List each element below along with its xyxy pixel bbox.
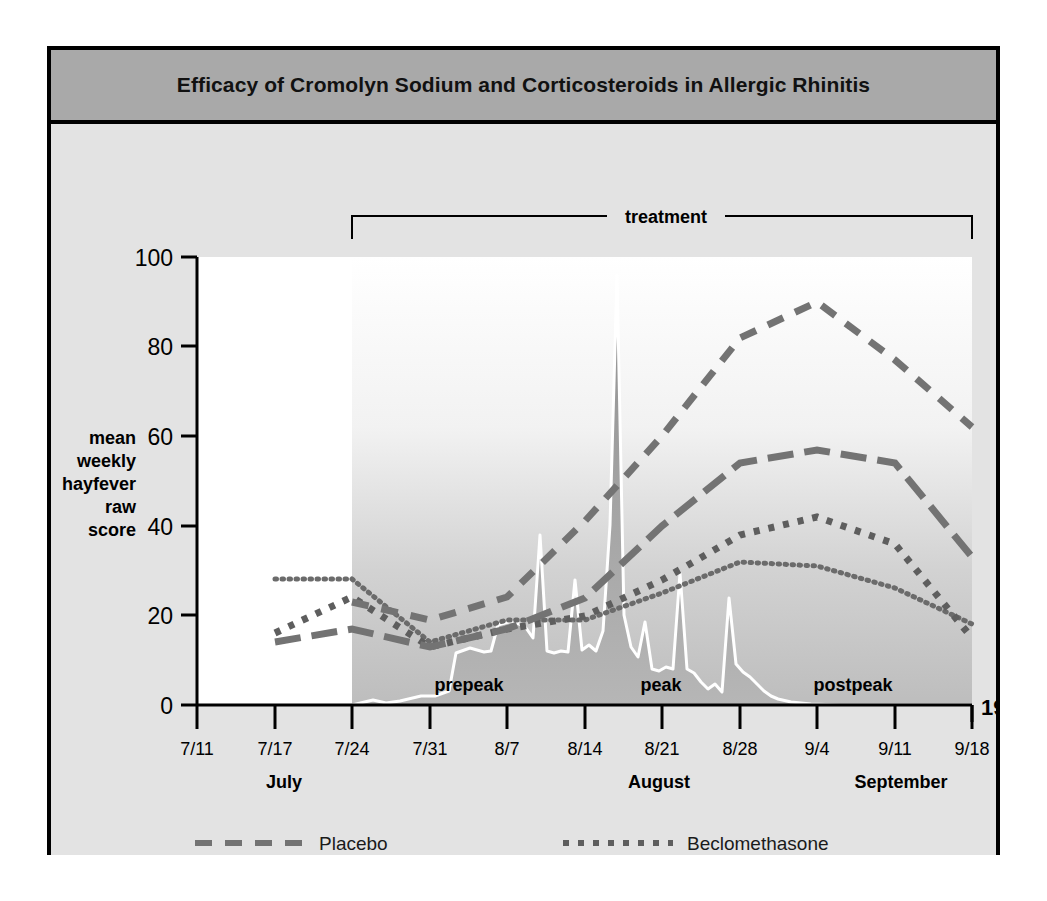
chart-canvas: treatment prepeak peak postpeak — [51, 124, 996, 855]
treatment-label: treatment — [625, 207, 707, 227]
y-axis-label-line-3: hayfever — [62, 474, 136, 494]
legend-label-beclomethasone: Beclomethasone — [687, 833, 829, 854]
phase-label-peak: peak — [640, 675, 682, 695]
y-axis-label: mean weekly hayfever raw score — [62, 428, 137, 540]
phase-label-prepeak: prepeak — [434, 675, 504, 695]
x-tick-10: 9/18 — [954, 739, 989, 759]
chart-svg: treatment prepeak peak postpeak — [51, 124, 996, 855]
x-tick-3: 7/31 — [412, 739, 447, 759]
x-tick-1: 7/17 — [257, 739, 292, 759]
month-label-july: July — [266, 772, 302, 792]
y-tick-80: 80 — [147, 334, 173, 360]
y-axis-label-line-5: score — [88, 520, 136, 540]
legend-item-placebo[interactable]: Placebo — [195, 833, 388, 854]
year-label: 1984 — [981, 695, 996, 720]
figure-panel: Efficacy of Cromolyn Sodium and Corticos… — [47, 46, 1000, 855]
x-tick-9: 9/11 — [878, 739, 912, 759]
legend-label-placebo: Placebo — [319, 833, 388, 854]
plot-background-pretreatment — [197, 257, 352, 705]
page-title: Efficacy of Cromolyn Sodium and Corticos… — [177, 73, 870, 97]
month-label-august: August — [628, 772, 690, 792]
y-tick-0: 0 — [160, 693, 173, 719]
chart-legend: Placebo Beclomethasone — [195, 833, 829, 854]
y-axis-label-line-2: weekly — [76, 451, 136, 471]
phase-label-postpeak: postpeak — [813, 675, 893, 695]
x-tick-0: 7/11 — [180, 739, 214, 759]
x-tick-2: 7/24 — [334, 739, 369, 759]
y-tick-40: 40 — [147, 514, 173, 540]
x-tick-6: 8/21 — [644, 739, 679, 759]
x-tick-7: 8/28 — [722, 739, 757, 759]
figure-title-bar: Efficacy of Cromolyn Sodium and Corticos… — [51, 50, 996, 124]
figure-body: treatment prepeak peak postpeak — [51, 124, 996, 855]
y-tick-20: 20 — [147, 603, 173, 629]
legend-item-beclomethasone[interactable]: Beclomethasone — [563, 833, 829, 854]
x-tick-4: 8/7 — [494, 739, 519, 759]
x-tick-8: 9/4 — [804, 739, 829, 759]
month-label-september: September — [854, 772, 947, 792]
y-axis-label-line-1: mean — [89, 428, 136, 448]
x-tick-5: 8/14 — [567, 739, 602, 759]
y-tick-60: 60 — [147, 424, 173, 450]
y-axis-label-line-4: raw — [105, 497, 137, 517]
y-tick-100: 100 — [135, 245, 173, 271]
